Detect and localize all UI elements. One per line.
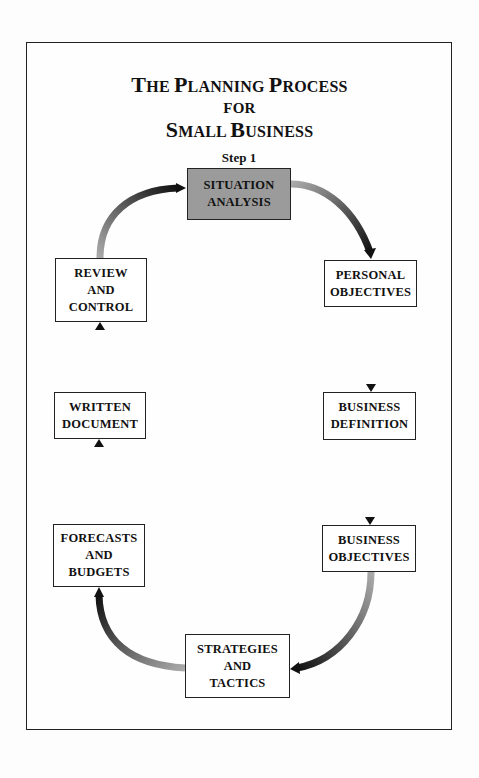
arrow-strategies-to-forecasts [99, 595, 185, 668]
arrow-situation-to-personal [291, 184, 370, 252]
step-business-definition: BUSINESS DEFINITION [323, 392, 416, 440]
step-review-and-control: REVIEW AND CONTROL [55, 258, 147, 322]
step-strategies-and-tactics: STRATEGIES AND TACTICS [185, 634, 290, 698]
step-business-objectives: BUSINESS OBJECTIVES [322, 525, 416, 572]
arrow-review-to-situation [100, 188, 178, 258]
step-personal-objectives: PERSONAL OBJECTIVES [324, 260, 417, 307]
arrow-objectives-to-strategies [297, 572, 371, 668]
step-forecasts-and-budgets: FORECASTS AND BUDGETS [53, 524, 145, 587]
step-situation-analysis: SITUATION ANALYSIS [187, 168, 291, 220]
step-written-document: WRITTEN DOCUMENT [54, 392, 146, 439]
